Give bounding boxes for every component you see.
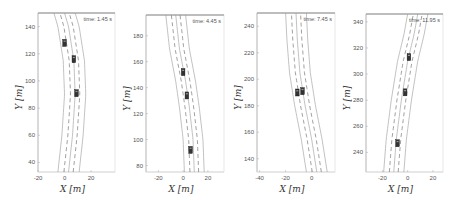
road-lines bbox=[384, 14, 428, 172]
x-tick-label: -20 bbox=[281, 175, 290, 181]
road-edge-line bbox=[404, 14, 428, 172]
x-tick-label: 20 bbox=[205, 175, 212, 181]
y-tick-label: 80 bbox=[28, 105, 35, 111]
road-edge-line bbox=[306, 13, 327, 172]
y-axis-label: Y [m] bbox=[14, 85, 24, 110]
figure: -20020406080100120140X [m]Y [m]time: 1.4… bbox=[0, 0, 458, 200]
y-tick-label: 260 bbox=[353, 123, 364, 129]
y-tick-label: 140 bbox=[133, 85, 144, 91]
time-annotation: time: 7.45 s bbox=[304, 16, 333, 22]
road-lines bbox=[286, 13, 328, 172]
subplot-1: -20020406080100120140X [m]Y [m]time: 1.4… bbox=[14, 13, 115, 194]
subplot-3: -40-200140160180200220240X [m]Y [m]time:… bbox=[233, 13, 335, 194]
y-tick-label: 80 bbox=[136, 163, 143, 169]
x-tick-label: 0 bbox=[181, 175, 185, 181]
y-tick-label: 340 bbox=[353, 19, 364, 25]
y-tick-label: 180 bbox=[244, 103, 255, 109]
vehicle-marker bbox=[301, 88, 305, 95]
y-tick-label: 280 bbox=[353, 97, 364, 103]
y-tick-label: 240 bbox=[353, 149, 364, 155]
y-tick-label: 240 bbox=[244, 23, 255, 29]
x-tick-label: -40 bbox=[255, 175, 264, 181]
x-tick-label: 20 bbox=[430, 175, 437, 181]
x-axis-label: X [m] bbox=[59, 184, 85, 194]
vehicle-marker bbox=[403, 89, 407, 96]
x-axis-label: X [m] bbox=[279, 184, 305, 194]
vehicle-marker bbox=[296, 89, 300, 96]
vehicle-marker bbox=[189, 146, 193, 153]
y-axis-label: Y [m] bbox=[122, 86, 132, 111]
road-edge-line bbox=[166, 15, 185, 172]
x-axis-label: X [m] bbox=[168, 184, 194, 194]
y-tick-label: 100 bbox=[25, 78, 36, 84]
y-tick-label: 220 bbox=[244, 50, 255, 56]
y-tick-label: 40 bbox=[28, 159, 35, 165]
vehicle-marker bbox=[185, 92, 189, 99]
x-tick-label: -20 bbox=[154, 175, 163, 181]
subplot-4: -20020240260280300320340X [m]Y [m]time: … bbox=[342, 14, 443, 194]
y-tick-label: 140 bbox=[244, 156, 255, 162]
time-annotation: time: 4.45 s bbox=[193, 18, 222, 24]
vehicle-marker bbox=[75, 90, 79, 97]
y-tick-label: 180 bbox=[133, 33, 144, 39]
y-axis-label: Y [m] bbox=[233, 85, 243, 110]
lane-divider-line bbox=[389, 14, 413, 172]
vehicle-marker bbox=[407, 54, 411, 61]
x-tick-label: 20 bbox=[88, 175, 95, 181]
vehicle-marker bbox=[396, 140, 400, 147]
y-tick-label: 100 bbox=[133, 137, 144, 143]
time-annotation: time: 11.95 s bbox=[409, 17, 440, 23]
road-lines bbox=[166, 15, 204, 172]
lane-divider-line bbox=[398, 14, 422, 172]
y-tick-label: 300 bbox=[353, 71, 364, 77]
y-tick-label: 160 bbox=[133, 59, 144, 65]
x-tick-label: 0 bbox=[63, 175, 67, 181]
time-annotation: time: 1.45 s bbox=[84, 16, 113, 22]
y-tick-label: 120 bbox=[25, 51, 36, 57]
y-axis-label: Y [m] bbox=[342, 85, 352, 110]
y-tick-label: 200 bbox=[244, 76, 255, 82]
x-tick-label: 0 bbox=[310, 175, 314, 181]
vehicle-marker bbox=[181, 69, 185, 76]
x-tick-label: -20 bbox=[378, 175, 387, 181]
y-tick-label: 160 bbox=[244, 129, 255, 135]
subplot-2: -2002080100120140160180X [m]Y [m]time: 4… bbox=[122, 15, 224, 194]
lane-divider-line bbox=[60, 13, 71, 172]
y-tick-label: 60 bbox=[28, 132, 35, 138]
x-axis-label: X [m] bbox=[387, 184, 413, 194]
road-edge-line bbox=[54, 13, 65, 172]
y-tick-label: 140 bbox=[25, 24, 36, 30]
road-lines bbox=[54, 13, 86, 172]
vehicle-marker bbox=[72, 56, 76, 63]
y-tick-label: 120 bbox=[133, 111, 144, 117]
vehicle-marker bbox=[63, 39, 67, 46]
x-tick-label: -20 bbox=[34, 175, 43, 181]
y-tick-label: 320 bbox=[353, 45, 364, 51]
x-tick-label: 0 bbox=[406, 175, 410, 181]
